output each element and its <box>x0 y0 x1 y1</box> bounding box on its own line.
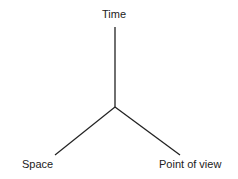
diagram-canvas: Time Space Point of view <box>0 0 238 179</box>
point-of-view-label: Point of view <box>159 158 221 171</box>
point-of-view-axis-line <box>115 107 180 155</box>
time-label: Time <box>102 8 126 21</box>
space-label: Space <box>22 158 53 171</box>
space-axis-line <box>55 107 115 155</box>
axes-graphic <box>0 0 238 179</box>
